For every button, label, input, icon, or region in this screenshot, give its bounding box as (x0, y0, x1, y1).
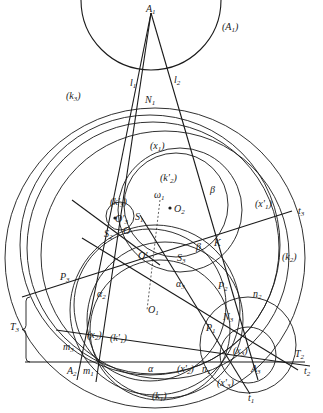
label-x2p-label: (x'2) (177, 363, 194, 376)
label-n2: n2 (253, 288, 262, 301)
label-O-prime: O' (138, 250, 148, 261)
label-A1-circle-label: (A1) (222, 21, 239, 34)
label-S1: S1 (135, 211, 144, 224)
circle-x3 (220, 327, 276, 383)
brace-icon (22, 297, 30, 362)
label-K: K (213, 237, 222, 248)
label-O: O (123, 225, 130, 236)
label-N1: N1 (144, 94, 155, 107)
label-k3-label: (k3) (66, 90, 81, 103)
label-T2: T2 (295, 348, 305, 361)
label-l1: l1 (130, 77, 136, 90)
label-k2-label: (k2) (282, 251, 297, 264)
label-x3p-label: (x'3) (217, 377, 234, 390)
circle-k1-prime (87, 242, 243, 398)
label-P1: P1 (205, 322, 216, 335)
label-x1p-label: (x'1) (255, 198, 272, 211)
label-P3: P3 (59, 271, 70, 284)
label-k1-label: (k1) (152, 390, 167, 403)
label-beta-mid: β (195, 241, 201, 252)
label-T3-label: T3 (10, 321, 20, 334)
label-O2-label: O2 (174, 203, 185, 216)
label-alpha3: α3 (176, 278, 185, 291)
label-t1-label: t1 (248, 392, 254, 405)
label-k1p-label: (k'1) (110, 332, 127, 345)
label-beta-top: β (209, 184, 215, 195)
label-l2: l2 (174, 74, 181, 87)
label-k2p-label: (k'2) (160, 172, 177, 185)
t3-bracket (22, 297, 30, 362)
label-k3p-label: (k'3) (110, 196, 127, 209)
label-alpha-base: α (148, 363, 154, 374)
label-x3-label: (x3) (233, 345, 248, 358)
label-alpha2: α2 (97, 288, 106, 301)
label-t2-label: t2 (304, 365, 311, 378)
label-A2: A2 (66, 365, 77, 378)
geometry-diagram: A1(A1)l1l2N1(k3)(x1)(k'2)βω1O2(k'3)O'3S1… (0, 0, 323, 413)
label-S3: S3 (177, 252, 186, 265)
label-n1: n1 (202, 363, 211, 376)
label-omega1: ω1 (154, 189, 165, 202)
label-x1-label: (x1) (150, 140, 165, 153)
label-O1: O1 (148, 304, 159, 317)
point-O2 (168, 206, 171, 209)
label-m3: m3 (63, 341, 74, 354)
label-A3: A3 (250, 363, 261, 376)
